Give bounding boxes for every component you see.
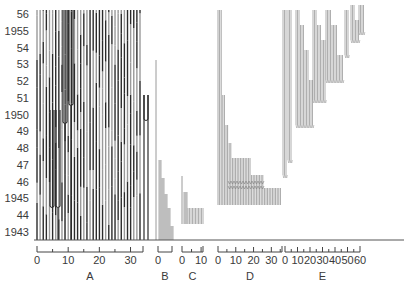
hatch-mark — [337, 80, 338, 83]
hatch-mark — [285, 175, 286, 178]
group-label: D — [246, 270, 254, 282]
axis-tick-label: 50 — [341, 254, 353, 266]
hatch-mark — [334, 80, 335, 83]
hatch-mark — [324, 100, 325, 103]
hatch-mark — [311, 125, 312, 128]
hatch-mark — [290, 160, 291, 163]
hatch-mark — [321, 100, 322, 103]
hatch-mark — [347, 55, 348, 58]
hatch-mark — [313, 125, 314, 128]
hatch-mark — [326, 80, 327, 83]
y-label: 1945 — [5, 192, 29, 204]
hatch-mark — [343, 80, 344, 83]
hatch-mark — [357, 40, 358, 43]
hatch-mark — [353, 40, 354, 43]
chart-lines — [37, 5, 365, 240]
hatch-mark — [296, 125, 297, 128]
axis-tick-label: 0 — [155, 254, 161, 266]
y-label: 54 — [17, 42, 29, 54]
y-axis-labels: 561955545352511950494847461945441943 — [5, 8, 29, 238]
hatch-mark — [322, 100, 323, 103]
group-axes: 0102030A0B010C0102030D0102030405060E — [34, 246, 366, 282]
hatch-mark — [359, 32, 360, 35]
hatch-mark — [361, 32, 362, 35]
axis-tick-label: 0 — [34, 254, 40, 266]
hatch-mark — [298, 125, 299, 128]
axis-tick-label: 10 — [230, 254, 242, 266]
hatch-mark — [305, 125, 306, 128]
axis-tick-label: 10 — [62, 254, 74, 266]
y-label: 48 — [17, 142, 29, 154]
axis-tick-label: 30 — [124, 254, 136, 266]
axis-tick-label: 0 — [282, 254, 288, 266]
y-label: 47 — [17, 159, 29, 171]
hatch-mark — [316, 100, 317, 103]
hatch-mark — [315, 100, 316, 103]
hatch-mark — [348, 55, 349, 58]
axis-group-e: 0102030405060E — [282, 246, 366, 282]
hatch-mark — [345, 55, 346, 58]
group-label: C — [189, 270, 197, 282]
hatch-mark — [332, 80, 333, 83]
hatch-mark — [328, 80, 329, 83]
axis-tick-label: 30 — [265, 254, 277, 266]
group-label: B — [161, 270, 168, 282]
timeline-chart: 561955545352511950494847461945441943 010… — [0, 0, 414, 282]
y-label: 1943 — [5, 226, 29, 238]
axis-tick-label: 30 — [316, 254, 328, 266]
y-label: 51 — [17, 92, 29, 104]
hatch-mark — [335, 80, 336, 83]
group-label: E — [319, 270, 326, 282]
hatch-mark — [288, 160, 289, 163]
axis-tick-label: 10 — [291, 254, 303, 266]
group-label: A — [86, 270, 94, 282]
hatch-mark — [341, 80, 342, 83]
y-label: 44 — [17, 209, 29, 221]
hatch-mark — [318, 100, 319, 103]
hatch-mark — [307, 125, 308, 128]
hatch-mark — [351, 40, 352, 43]
hatch-mark — [359, 40, 360, 43]
axis-tick-label: 20 — [304, 254, 316, 266]
hatch-mark — [356, 40, 357, 43]
hatch-mark — [302, 125, 303, 128]
hatch-mark — [308, 125, 309, 128]
hatch-mark — [304, 125, 305, 128]
hatch-mark — [291, 160, 292, 163]
hatch-mark — [331, 80, 332, 83]
y-label: 53 — [17, 58, 29, 70]
axis-tick-label: 10 — [195, 254, 207, 266]
axis-group-c: 010C — [179, 246, 207, 282]
hatch-mark — [340, 80, 341, 83]
loop-marker — [56, 110, 60, 208]
hatch-mark — [299, 125, 300, 128]
axis-tick-label: 20 — [247, 254, 259, 266]
y-label: 49 — [17, 125, 29, 137]
hatch-mark — [362, 32, 363, 35]
y-label: 1955 — [5, 25, 29, 37]
hatch-mark — [338, 80, 339, 83]
axis-tick-label: 0 — [215, 254, 221, 266]
axis-tick-label: 40 — [329, 254, 341, 266]
hatch-mark — [329, 80, 330, 83]
hatch-mark — [325, 100, 326, 103]
y-label: 52 — [17, 75, 29, 87]
axis-group-a: 0102030A — [34, 246, 143, 282]
hatch-mark — [310, 125, 311, 128]
hatch-mark — [354, 40, 355, 43]
axis-group-d: 0102030D — [215, 246, 282, 282]
axis-tick-label: 20 — [93, 254, 105, 266]
axis-tick-label: 0 — [179, 254, 185, 266]
y-label: 1950 — [5, 109, 29, 121]
axis-tick-label: 60 — [354, 254, 366, 266]
hatch-mark — [313, 100, 314, 103]
hatch-mark — [364, 32, 365, 35]
hatch-mark — [301, 125, 302, 128]
hatch-mark — [286, 175, 287, 178]
y-label: 46 — [17, 176, 29, 188]
hatch-mark — [283, 175, 284, 178]
axis-group-b: 0B — [155, 246, 172, 282]
y-label: 56 — [17, 8, 29, 20]
hatch-mark — [319, 100, 320, 103]
